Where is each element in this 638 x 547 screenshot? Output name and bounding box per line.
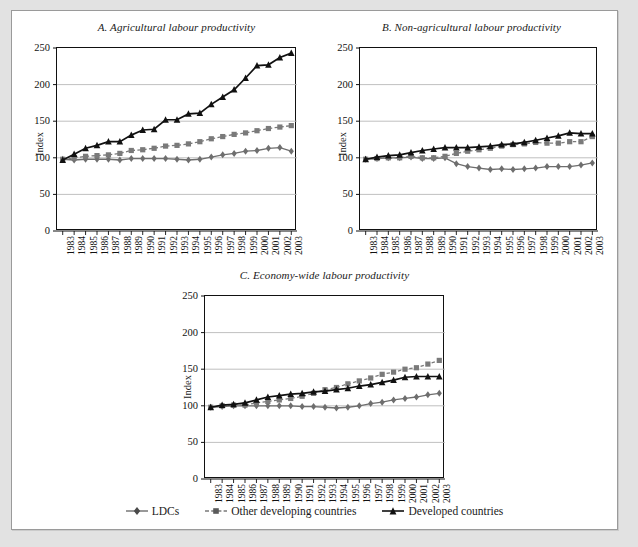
plot-frame: [359, 47, 597, 230]
data-point-marker: [289, 148, 294, 155]
data-point-marker: [288, 402, 293, 409]
data-point-marker: [277, 124, 282, 129]
legend-item-developed: Developed countries: [382, 505, 503, 517]
x-axis-tick-label: 1992: [169, 236, 179, 255]
y-axis-tick-label: 250: [24, 42, 50, 53]
data-point-marker: [129, 148, 134, 153]
y-axis-tick-label: 150: [172, 363, 198, 374]
diamond-marker-icon: [126, 505, 148, 517]
x-axis-tick-label: 2000: [561, 236, 571, 255]
data-point-marker: [454, 151, 459, 156]
data-point-marker: [380, 399, 385, 406]
x-axis-tick-label: 1995: [203, 236, 213, 255]
y-axis-tick-label: 50: [24, 188, 50, 199]
data-point-marker: [209, 136, 214, 141]
data-point-marker: [567, 163, 572, 170]
x-axis-tick-label: 1988: [123, 236, 133, 255]
x-axis-tick-label: 2003: [442, 484, 452, 503]
x-axis-tick-label: 2001: [419, 484, 429, 503]
data-point-marker: [83, 154, 88, 159]
x-axis-tick-label: 1995: [505, 236, 515, 255]
plot-frame: [56, 47, 296, 230]
series-other-developing-countries: [208, 358, 442, 410]
x-axis-tick-label: 1998: [385, 484, 395, 503]
y-axis-tick-label: 0: [329, 225, 353, 236]
y-axis-tick-label: 0: [172, 473, 198, 484]
data-point-marker: [197, 139, 202, 144]
y-axis-tick-label: 0: [24, 225, 50, 236]
y-axis-tick-label: 150: [24, 115, 50, 126]
x-axis-tick-label: 2002: [431, 484, 441, 503]
data-point-marker: [544, 163, 549, 170]
data-point-marker: [556, 141, 561, 146]
x-axis-tick-label: 1990: [294, 484, 304, 503]
data-point-marker: [357, 402, 362, 409]
data-point-marker: [391, 370, 396, 375]
x-axis-tick-label: 1998: [539, 236, 549, 255]
data-point-marker: [533, 165, 538, 172]
data-point-marker: [106, 152, 111, 157]
x-axis-tick-label: 1998: [237, 236, 247, 255]
data-point-marker: [368, 375, 373, 380]
chart-panel-b: B. Non-agricultural labour productivity …: [329, 21, 614, 271]
data-point-marker: [243, 130, 248, 135]
x-axis-tick-label: 2001: [271, 236, 281, 255]
x-axis-tick-label: 1985: [391, 236, 401, 255]
data-point-marker: [590, 159, 595, 166]
legend-label-developed: Developed countries: [408, 505, 503, 517]
x-axis-tick-label: 1986: [100, 236, 110, 255]
data-point-marker: [209, 154, 214, 161]
chart-panel-a: A. Agricultural labour productivity Inde…: [24, 21, 329, 271]
y-axis-tick-label: 250: [329, 42, 353, 53]
data-point-marker: [254, 128, 259, 133]
legend-label-other-developing: Other developing countries: [231, 505, 356, 517]
data-point-marker: [414, 394, 419, 401]
x-axis-tick-label: 1989: [282, 484, 292, 503]
x-axis-tick-label: 1991: [305, 484, 315, 503]
x-axis-tick-label: 2003: [595, 236, 605, 255]
x-axis-tick-label: 2003: [294, 236, 304, 255]
data-point-marker: [117, 151, 122, 156]
x-axis-tick-label: 1994: [339, 484, 349, 503]
chart-legend: LDCs Other developing countries Develope…: [12, 505, 617, 517]
x-axis-tick-label: 1988: [425, 236, 435, 255]
y-axis-tick-label: 100: [172, 399, 198, 410]
x-axis-tick-label: 1986: [248, 484, 258, 503]
x-axis-tick-label: 1996: [214, 236, 224, 255]
x-axis-tick-label: 1986: [403, 236, 413, 255]
x-axis-tick-label: 1989: [437, 236, 447, 255]
x-axis-tick-label: 1992: [317, 484, 327, 503]
x-axis-tick-label: 1984: [380, 236, 390, 255]
x-axis-tick-label: 1997: [374, 484, 384, 503]
data-point-marker: [556, 163, 561, 170]
data-point-marker: [208, 101, 215, 108]
y-axis-tick-label: 150: [329, 115, 353, 126]
panel-b-title: B. Non-agricultural labour productivity: [329, 21, 614, 33]
data-point-marker: [220, 151, 225, 158]
x-axis-tick-label: 1983: [66, 236, 76, 255]
data-point-marker: [567, 139, 572, 144]
x-axis-tick-label: 1985: [237, 484, 247, 503]
x-axis-tick-label: 1987: [111, 236, 121, 255]
x-axis-tick-label: 1996: [516, 236, 526, 255]
x-axis-tick-label: 1995: [351, 484, 361, 503]
figure-sheet: A. Agricultural labour productivity Inde…: [11, 10, 618, 530]
data-point-marker: [163, 143, 168, 148]
x-axis-tick-label: 1996: [362, 484, 372, 503]
x-axis-tick-label: 1990: [146, 236, 156, 255]
data-point-marker: [345, 404, 350, 411]
triangle-marker-icon: [382, 505, 404, 517]
x-axis-tick-label: 1994: [191, 236, 201, 255]
plot-frame: [204, 295, 444, 478]
data-point-marker: [140, 147, 145, 152]
y-axis-tick-label: 50: [172, 436, 198, 447]
x-axis-tick-label: 2001: [573, 236, 583, 255]
plot-canvas: [205, 296, 445, 479]
x-axis-tick-label: 1990: [448, 236, 458, 255]
data-point-marker: [425, 391, 430, 398]
data-point-marker: [174, 143, 179, 148]
data-point-marker: [243, 148, 248, 155]
data-point-marker: [289, 123, 294, 128]
data-point-marker: [402, 395, 407, 402]
data-point-marker: [510, 166, 515, 173]
